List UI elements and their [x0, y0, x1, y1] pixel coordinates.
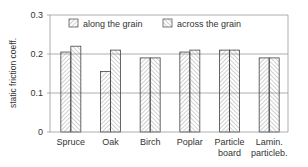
- legend-swatch: [69, 19, 78, 27]
- bar-along: [220, 50, 230, 132]
- x-tick-label: Spruce: [57, 137, 86, 147]
- legend-label: across the grain: [177, 19, 241, 29]
- bar-along: [180, 52, 190, 132]
- bar-along: [259, 58, 269, 132]
- x-tick-label: Particle: [214, 137, 244, 147]
- bar-across: [111, 50, 121, 132]
- y-tick-label: 0: [38, 127, 43, 137]
- y-tick-label: 0.2: [30, 49, 43, 59]
- bar-across: [269, 58, 279, 132]
- x-tick-label: Poplar: [177, 137, 203, 147]
- bar-along: [61, 52, 71, 132]
- legend-swatch: [163, 19, 172, 27]
- bar-across: [150, 58, 160, 132]
- x-tick-label: particleb.: [251, 148, 288, 158]
- x-tick-label: Oak: [102, 137, 119, 147]
- bar-across: [230, 50, 240, 132]
- legend-label: along the grain: [83, 19, 143, 29]
- bar-chart: 00.10.20.3SpruceOakBirchPoplarParticlebo…: [0, 0, 308, 167]
- bar-along: [140, 58, 150, 132]
- x-tick-label: Lamin.: [256, 137, 283, 147]
- bar-across: [71, 46, 81, 132]
- bar-along: [101, 72, 111, 132]
- y-tick-label: 0.1: [30, 88, 43, 98]
- y-tick-label: 0.3: [30, 10, 43, 20]
- bars-layer: [61, 46, 279, 132]
- y-axis-label: static friction coeff.: [8, 38, 18, 108]
- x-tick-label: Birch: [140, 137, 161, 147]
- x-tick-label: board: [218, 148, 241, 158]
- legend: along the grainacross the grain: [69, 19, 241, 29]
- bar-across: [190, 50, 200, 132]
